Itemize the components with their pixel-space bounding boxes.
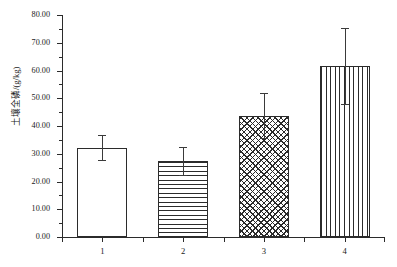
y-tick-label: 50.00 bbox=[32, 94, 50, 102]
y-tick-minor bbox=[59, 84, 62, 85]
y-tick-major: 60.00 bbox=[57, 71, 62, 72]
x-tick bbox=[183, 237, 184, 242]
error-bar-cap-upper bbox=[341, 28, 349, 29]
y-tick-label: 20.00 bbox=[32, 177, 50, 185]
y-tick-major: 20.00 bbox=[57, 182, 62, 183]
y-tick-minor bbox=[59, 195, 62, 196]
x-tick bbox=[62, 237, 63, 242]
y-tick-major: 10.00 bbox=[57, 209, 62, 210]
error-bar-cap-upper bbox=[98, 135, 106, 136]
y-tick-label: 10.00 bbox=[32, 205, 50, 213]
y-tick-label: 40.00 bbox=[32, 122, 50, 130]
y-tick-minor bbox=[59, 223, 62, 224]
x-tick-label: 2 bbox=[181, 247, 185, 256]
error-bar-stem bbox=[345, 28, 346, 104]
y-tick-major: 40.00 bbox=[57, 126, 62, 127]
bar-chart-figure: 土壤全磷/(g/kg) 0.0010.0020.0030.0040.0050.0… bbox=[0, 0, 397, 267]
plot-area: 0.0010.0020.0030.0040.0050.0060.0070.008… bbox=[62, 15, 385, 237]
y-tick-label: 30.00 bbox=[32, 150, 50, 158]
y-tick-label: 0.00 bbox=[36, 233, 50, 241]
x-tick-label: 3 bbox=[262, 247, 266, 256]
x-tick-label: 1 bbox=[100, 247, 104, 256]
y-axis-title: 土壤全磷/(g/kg) bbox=[9, 67, 21, 126]
y-tick-label: 80.00 bbox=[32, 11, 50, 19]
y-tick-label: 70.00 bbox=[32, 39, 50, 47]
error-bar-cap-lower bbox=[260, 138, 268, 139]
x-tick bbox=[384, 237, 385, 242]
x-tick bbox=[264, 237, 265, 242]
x-tick bbox=[143, 237, 144, 242]
y-tick-major: 70.00 bbox=[57, 43, 62, 44]
x-tick bbox=[224, 237, 225, 242]
y-tick-major: 50.00 bbox=[57, 98, 62, 99]
x-tick bbox=[345, 237, 346, 242]
error-bar-cap-lower bbox=[341, 104, 349, 105]
error-bar-cap-lower bbox=[179, 175, 187, 176]
y-tick-minor bbox=[59, 29, 62, 30]
y-tick-major: 80.00 bbox=[57, 15, 62, 16]
y-tick-major: 30.00 bbox=[57, 154, 62, 155]
error-bar-stem bbox=[264, 93, 265, 139]
error-bar-cap-upper bbox=[179, 147, 187, 148]
error-bar-stem bbox=[102, 135, 103, 161]
y-tick-minor bbox=[59, 112, 62, 113]
y-tick-label: 60.00 bbox=[32, 66, 50, 74]
y-tick-minor bbox=[59, 168, 62, 169]
y-tick-minor bbox=[59, 140, 62, 141]
y-tick-minor bbox=[59, 57, 62, 58]
x-tick bbox=[304, 237, 305, 242]
error-bar-cap-lower bbox=[98, 160, 106, 161]
error-bar-stem bbox=[183, 147, 184, 175]
x-tick-label: 4 bbox=[342, 247, 346, 256]
error-bar-cap-upper bbox=[260, 93, 268, 94]
x-tick bbox=[102, 237, 103, 242]
